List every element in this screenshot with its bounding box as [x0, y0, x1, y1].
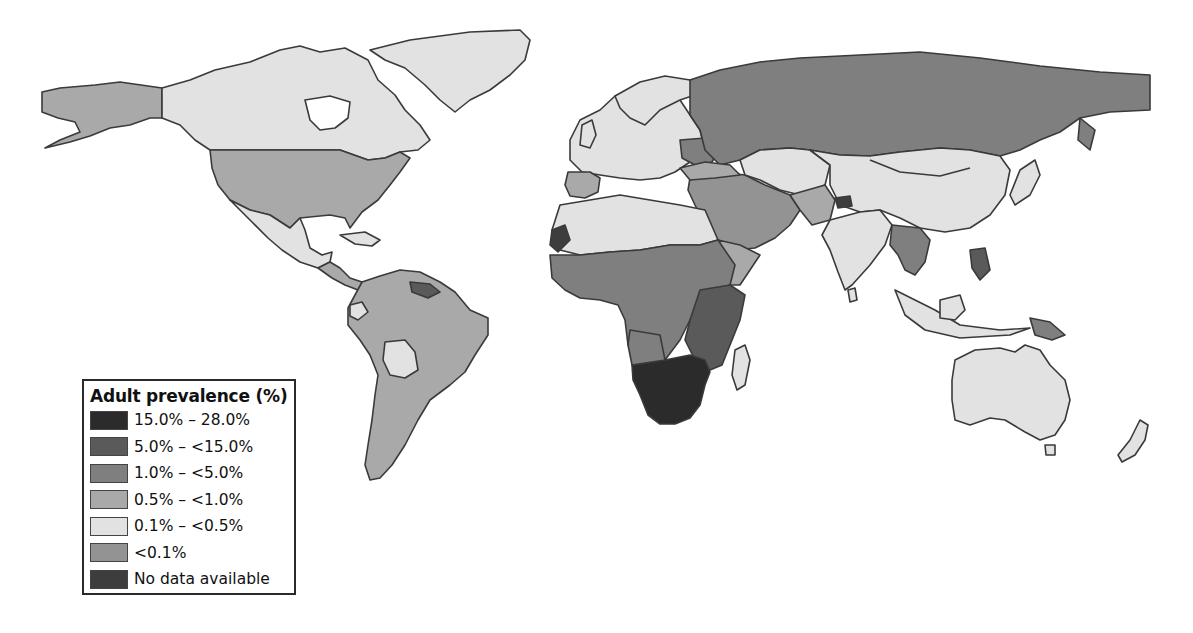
legend-swatch — [90, 543, 128, 562]
region-canada — [162, 46, 430, 160]
legend-item: No data available — [90, 566, 288, 593]
region-madagascar — [732, 345, 750, 390]
legend-item: 0.5% – <1.0% — [90, 487, 288, 514]
region-papua-new-guinea — [1030, 318, 1065, 340]
legend-title: Adult prevalence (%) — [90, 385, 288, 407]
region-sri-lanka — [848, 288, 857, 302]
region-southern-africa — [632, 355, 710, 424]
legend-item: 15.0% – 28.0% — [90, 407, 288, 434]
region-borneo — [940, 295, 965, 320]
legend-label: 0.1% – <0.5% — [134, 517, 243, 535]
legend-swatch — [90, 517, 128, 536]
legend-label: No data available — [134, 570, 270, 588]
region-new-zealand — [1118, 420, 1148, 462]
legend-label: 0.5% – <1.0% — [134, 491, 243, 509]
legend-item: 0.1% – <0.5% — [90, 513, 288, 540]
legend-label: <0.1% — [134, 544, 186, 562]
legend: Adult prevalence (%) 15.0% – 28.0% 5.0% … — [82, 379, 296, 595]
legend-label: 5.0% – <15.0% — [134, 438, 253, 456]
legend-swatch — [90, 411, 128, 430]
legend-swatch — [90, 437, 128, 456]
region-philippines — [970, 248, 990, 280]
region-nepal — [835, 196, 852, 208]
region-alaska — [42, 82, 162, 148]
region-united-states — [210, 150, 410, 228]
legend-swatch — [90, 570, 128, 589]
legend-item: 5.0% – <15.0% — [90, 434, 288, 461]
region-angola — [628, 330, 665, 365]
region-iberia — [565, 172, 600, 198]
region-kamchatka — [1078, 118, 1095, 150]
region-russia — [690, 52, 1150, 165]
region-australia — [952, 345, 1070, 440]
legend-item: 1.0% – <5.0% — [90, 460, 288, 487]
region-tasmania — [1045, 445, 1055, 455]
region-india — [822, 210, 892, 290]
region-southeast-asia — [890, 225, 930, 275]
region-south-america — [348, 270, 488, 480]
region-caribbean — [340, 232, 380, 246]
legend-label: 15.0% – 28.0% — [134, 411, 250, 429]
legend-swatch — [90, 490, 128, 509]
legend-label: 1.0% – <5.0% — [134, 464, 243, 482]
legend-swatch — [90, 464, 128, 483]
region-japan — [1010, 160, 1040, 205]
region-indonesia — [895, 290, 1030, 338]
legend-item: <0.1% — [90, 540, 288, 567]
